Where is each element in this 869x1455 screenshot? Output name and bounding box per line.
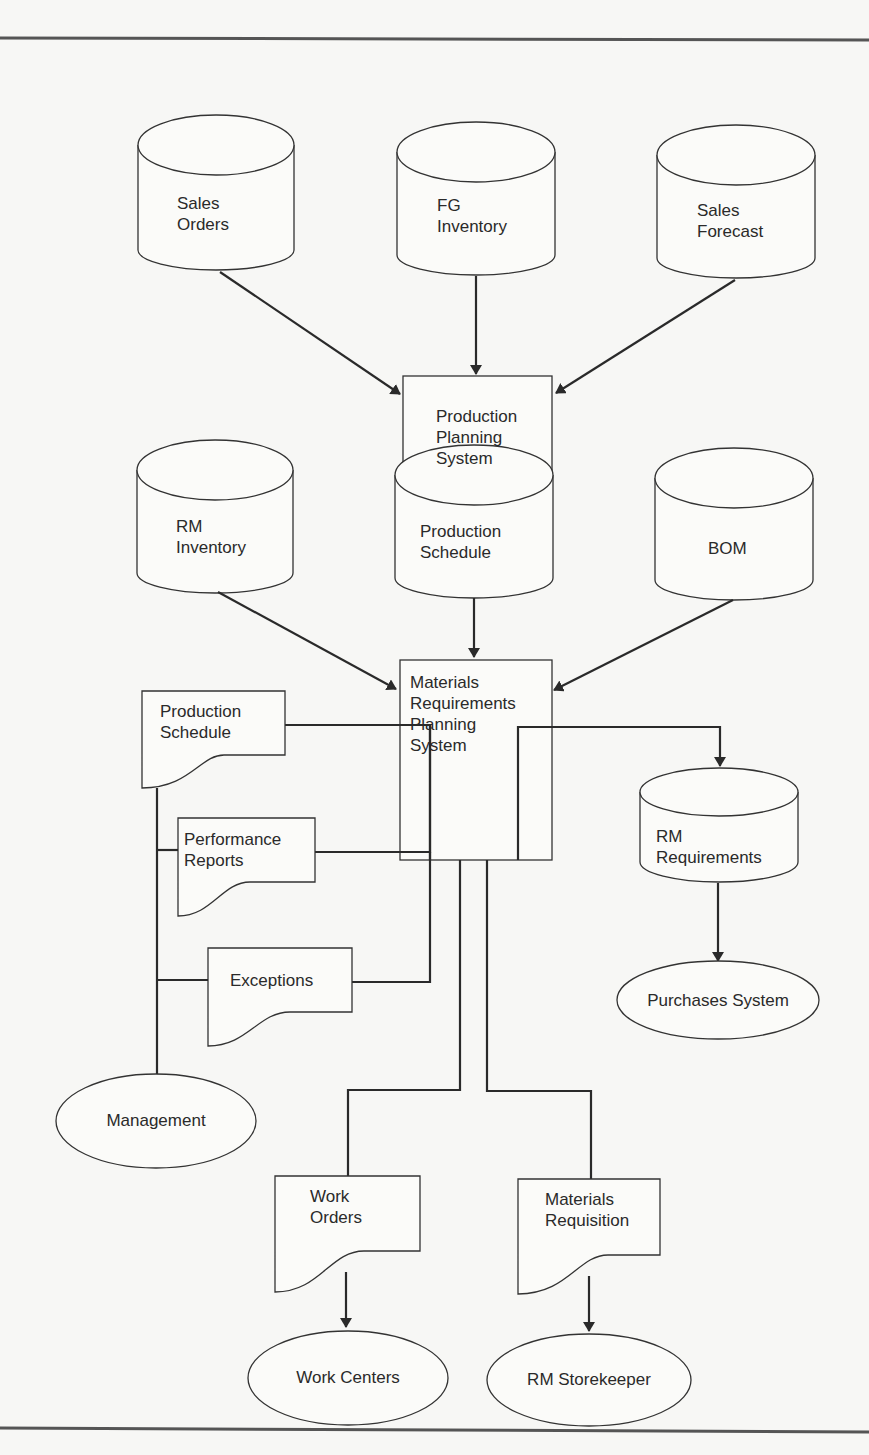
bottom-rule — [0, 1428, 869, 1432]
rm-requirements-label: RM Requirements — [656, 826, 762, 868]
bom-label: BOM — [708, 538, 747, 559]
mrp-system-label: Materials Requirements Planning System — [410, 672, 516, 756]
management-label: Management — [56, 1110, 256, 1131]
arrow-bom — [554, 600, 733, 690]
exceptions-document — [208, 948, 352, 1046]
work-centers-label: Work Centers — [248, 1367, 448, 1388]
rm-inventory-label: RM Inventory — [176, 516, 246, 558]
materials-requisition-label: Materials Requisition — [545, 1189, 629, 1231]
top-rule — [0, 38, 869, 40]
production-planning-system-label: Production Planning System — [436, 406, 517, 469]
arrow-sales-forecast — [556, 280, 735, 393]
purchases-system-label: Purchases System — [617, 990, 819, 1011]
work-orders-label: Work Orders — [310, 1186, 362, 1228]
bom-store — [655, 448, 813, 600]
arrow-rm-inventory — [218, 592, 396, 689]
exceptions-label: Exceptions — [230, 970, 313, 991]
arrow-sales-orders — [220, 272, 400, 394]
production-schedule-store-label: Production Schedule — [420, 521, 501, 563]
sales-orders-label: Sales Orders — [177, 193, 229, 235]
performance-reports-label: Performance Reports — [184, 829, 281, 871]
production-schedule-doc-label: Production Schedule — [160, 701, 241, 743]
line-mrp-to-exceptions — [352, 852, 430, 982]
fg-inventory-label: FG Inventory — [437, 195, 507, 237]
line-mrp-to-work-orders — [348, 860, 460, 1180]
line-mrp-to-materials-requisition — [487, 860, 591, 1182]
sales-forecast-label: Sales Forecast — [697, 200, 763, 242]
rm-storekeeper-label: RM Storekeeper — [487, 1369, 691, 1390]
